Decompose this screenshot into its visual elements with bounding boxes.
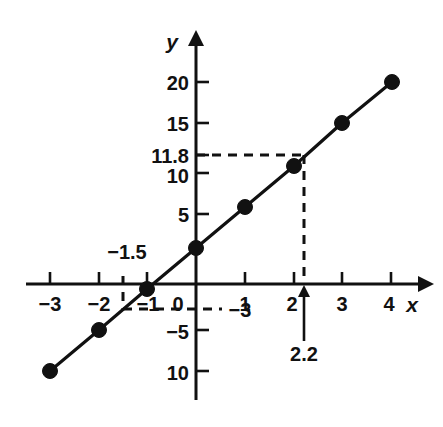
- data-point: [287, 159, 302, 174]
- pointer-arrow-up-icon: [298, 285, 310, 297]
- x-tick-label-0: 0: [172, 293, 183, 315]
- x-tick-label-3: 3: [336, 293, 347, 315]
- data-point: [238, 200, 253, 215]
- y-tick-marks-group: [196, 82, 209, 371]
- callout-label-minus-3: −3: [229, 299, 252, 321]
- data-point: [43, 364, 58, 379]
- y-tick-labels-group: 20 15 11.8 10 5 −5 10: [151, 72, 189, 384]
- axes-group: [26, 30, 434, 400]
- y-tick-label-10: 10: [167, 165, 189, 187]
- graph-figure: 20 15 11.8 10 5 −5 10 −3 −2 −1 0 1 2 3 4…: [0, 0, 443, 427]
- data-point: [335, 116, 350, 131]
- x-axis-arrow-icon: [418, 276, 434, 292]
- x-tick-label-2: 2: [286, 293, 297, 315]
- x-tick-marks-group: [50, 272, 391, 284]
- y-tick-label-5: 5: [178, 204, 189, 226]
- y-tick-label-minus-10: 10: [167, 362, 189, 384]
- data-point: [189, 241, 204, 256]
- y-axis-title: y: [165, 30, 179, 53]
- pointer-arrow-2p2-group: [298, 285, 310, 341]
- x-tick-label-minus-3: −3: [39, 293, 62, 315]
- x-tick-label-minus-2: −2: [88, 293, 111, 315]
- y-axis-arrow-icon: [188, 30, 204, 46]
- y-tick-label-minus-5: −5: [166, 321, 189, 343]
- callout-label-2p2: 2.2: [290, 343, 318, 365]
- y-tick-label-20: 20: [167, 72, 189, 94]
- data-point: [385, 75, 400, 90]
- line-graph-plot: 20 15 11.8 10 5 −5 10 −3 −2 −1 0 1 2 3 4…: [0, 0, 443, 427]
- callout-label-minus-1p5: −1.5: [107, 241, 146, 263]
- x-tick-label-minus-1: −1: [137, 293, 160, 315]
- x-tick-label-4: 4: [383, 293, 395, 315]
- y-tick-label-15: 15: [167, 113, 189, 135]
- x-tick-labels-group: −3 −2 −1 0 1 2 3 4: [39, 293, 396, 315]
- y-tick-label-11p8: 11.8: [151, 145, 189, 167]
- x-axis-title: x: [405, 293, 419, 316]
- data-point: [92, 323, 107, 338]
